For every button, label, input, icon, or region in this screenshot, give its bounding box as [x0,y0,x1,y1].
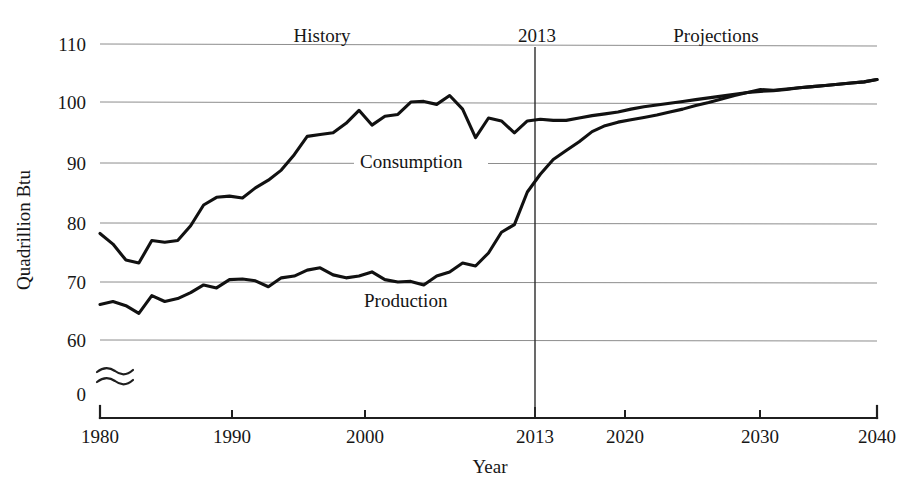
y-axis-break-zero-label: 0 [77,384,87,405]
gridline-70 [100,282,877,283]
projections-region-label: Projections [673,25,759,46]
y-axis-tick-labels: 110 100 90 80 70 60 0 [58,34,87,405]
wave-break-icon [97,368,133,384]
y-tick-label-110: 110 [58,34,86,55]
region-annotations: History 2013 Projections [294,25,759,46]
series-inline-labels: Consumption Production [354,149,488,312]
series-paths [100,80,877,314]
gridline-90 [100,163,877,164]
x-tick-label-2040: 2040 [858,426,896,447]
gridline-100 [100,102,877,104]
gridline-60 [100,340,877,341]
y-tick-label-60: 60 [67,330,86,351]
x-tick-label-1980: 1980 [81,426,119,447]
consumption-series-path [100,80,877,264]
energy-outlook-chart: 110 100 90 80 70 60 0 1980 1990 2000 [0,0,922,487]
y-tick-label-100: 100 [58,92,87,113]
history-region-label: History [294,25,352,46]
gridline-80 [100,223,877,224]
x-tick-label-2013: 2013 [516,426,554,447]
divider-year-label: 2013 [518,25,556,46]
x-axis-title: Year [472,456,508,477]
x-tick-label-2000: 2000 [346,426,384,447]
y-axis-title: Quadrillion Btu [13,170,34,290]
x-tick-label-2020: 2020 [606,426,644,447]
y-tick-label-70: 70 [67,272,86,293]
consumption-series-label: Consumption [360,151,463,172]
x-axis-tick-labels: 1980 1990 2000 2013 2020 2030 2040 [81,426,896,447]
x-tick-label-2030: 2030 [741,426,779,447]
y-tick-label-80: 80 [67,213,86,234]
gridline-110 [100,44,877,46]
chart-canvas: 110 100 90 80 70 60 0 1980 1990 2000 [0,0,922,487]
production-series-label: Production [364,290,448,311]
y-tick-label-90: 90 [67,153,86,174]
x-tick-label-1990: 1990 [213,426,251,447]
axes-group [100,406,877,418]
